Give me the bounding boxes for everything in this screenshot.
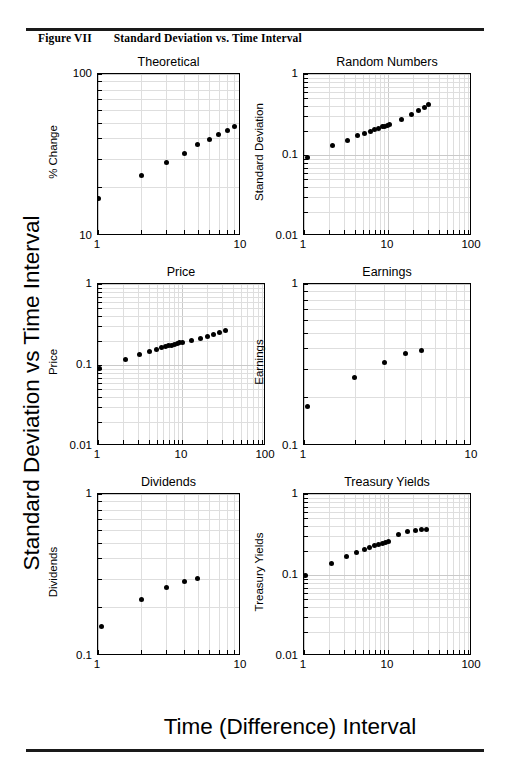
y-tickmark	[304, 320, 308, 321]
y-tickmark	[304, 536, 308, 537]
data-point	[344, 554, 349, 559]
y-tickmark	[98, 308, 102, 309]
plot-area	[303, 73, 471, 235]
y-gridline	[304, 309, 470, 310]
data-point	[405, 529, 410, 534]
y-tickmark	[98, 74, 102, 75]
figure-x-axis-label: Time (Difference) Interval	[90, 714, 490, 740]
y-gridline	[304, 507, 470, 508]
data-point	[382, 360, 387, 365]
x-tickmark	[405, 440, 406, 444]
x-gridline	[435, 284, 436, 444]
x-gridline	[184, 494, 185, 654]
data-point	[305, 404, 310, 409]
x-tick-label: 10	[234, 658, 247, 670]
x-gridline	[464, 284, 465, 444]
x-tickmark	[384, 650, 385, 654]
y-gridline	[98, 407, 264, 408]
x-tickmark	[234, 650, 235, 654]
x-tickmark	[198, 650, 199, 654]
x-tickmark	[198, 230, 199, 234]
y-gridline	[304, 155, 470, 156]
x-tickmark	[363, 650, 364, 654]
y-tickmark	[304, 168, 308, 169]
x-tickmark	[447, 230, 448, 234]
x-tickmark	[384, 230, 385, 234]
x-tick-label: 100	[461, 658, 480, 670]
x-tickmark	[329, 650, 330, 654]
y-gridline	[304, 106, 470, 107]
header-rule	[26, 28, 484, 31]
y-tickmark	[304, 551, 308, 552]
data-point	[352, 375, 357, 380]
data-point	[123, 357, 128, 362]
x-tickmark	[456, 440, 457, 444]
y-tickmark	[304, 593, 308, 594]
x-tickmark	[421, 440, 422, 444]
x-tickmark	[174, 440, 175, 444]
x-tickmark	[459, 230, 460, 234]
y-gridline	[304, 502, 470, 503]
data-point	[416, 108, 421, 113]
y-gridline	[304, 348, 470, 349]
plot-area	[97, 493, 240, 655]
y-tickmark	[304, 512, 308, 513]
x-tickmark	[241, 440, 242, 444]
y-tickmark	[98, 383, 102, 384]
subplot-price: Price0.010.11110100Price	[97, 283, 265, 445]
y-tick-label: 1	[292, 487, 298, 499]
y-gridline	[304, 632, 470, 633]
figure-caption: Figure VIIStandard Deviation vs. Time In…	[38, 32, 302, 44]
y-gridline	[304, 87, 470, 88]
y-tickmark	[98, 81, 102, 82]
y-gridline	[304, 116, 470, 117]
data-point	[137, 352, 142, 357]
x-tickmark	[219, 230, 220, 234]
y-tickmark	[98, 397, 102, 398]
y-tickmark	[98, 326, 102, 327]
subplot-earnings: Earnings0.11110Earnings	[303, 283, 471, 445]
x-tick-label: 1	[300, 448, 306, 460]
subplot-y-axis-label: Standard Deviation	[253, 72, 265, 232]
data-point	[409, 112, 414, 117]
x-tickmark	[247, 440, 248, 444]
x-tick-label: 10	[234, 238, 247, 250]
y-tickmark	[98, 138, 102, 139]
plot-area	[303, 283, 471, 445]
data-point	[139, 173, 144, 178]
y-tick-label: 0.01	[70, 439, 92, 451]
data-point	[330, 143, 335, 148]
x-tickmark	[428, 650, 429, 654]
data-point	[182, 151, 187, 156]
y-tickmark	[98, 110, 102, 111]
data-point	[139, 597, 144, 602]
y-tick-label: 1	[292, 67, 298, 79]
x-tick-label: 10	[175, 448, 188, 460]
y-gridline	[98, 369, 264, 370]
y-gridline	[98, 110, 239, 111]
y-gridline	[98, 378, 264, 379]
data-point	[362, 547, 367, 552]
y-tickmark	[304, 599, 308, 600]
y-tick-label: 10	[79, 229, 92, 241]
x-tickmark	[369, 650, 370, 654]
subplot-treasury-yields: Treasury Yields0.010.11110100Treasury Yi…	[303, 493, 471, 655]
y-gridline	[304, 518, 470, 519]
y-tickmark	[98, 297, 102, 298]
y-gridline	[304, 98, 470, 99]
y-gridline	[98, 543, 239, 544]
x-tickmark	[123, 440, 124, 444]
y-gridline	[304, 92, 470, 93]
x-tickmark	[464, 440, 465, 444]
data-point	[232, 124, 237, 129]
y-gridline	[304, 583, 470, 584]
y-gridline	[304, 78, 470, 79]
x-tickmark	[363, 230, 364, 234]
y-tickmark	[98, 302, 102, 303]
data-point	[205, 334, 210, 339]
x-tickmark	[141, 230, 142, 234]
subplot-y-axis-label: Earnings	[253, 282, 265, 442]
x-gridline	[456, 284, 457, 444]
y-tickmark	[304, 82, 308, 83]
subplot-y-axis-label: Price	[47, 282, 59, 442]
